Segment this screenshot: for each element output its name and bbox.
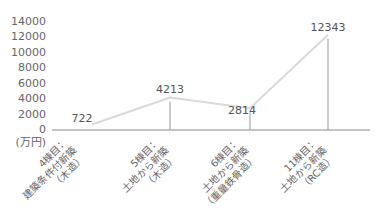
y-tick-label: 4000 — [18, 93, 46, 104]
y-tick-label: 2000 — [18, 109, 46, 120]
y-tick-label: 12000 — [11, 31, 46, 42]
data-label: 722 — [72, 112, 93, 125]
series-line — [92, 35, 328, 125]
y-tick-label: 8000 — [18, 62, 46, 73]
y-tick-label: 0 — [39, 124, 46, 135]
y-tick-label: 14000 — [11, 16, 46, 27]
data-label: 2814 — [228, 104, 256, 117]
line-chart: 7224213281412343 02000400060008000100001… — [0, 0, 375, 217]
data-label: 12343 — [311, 21, 346, 34]
y-tick-label: 6000 — [18, 78, 46, 89]
y-tick-label: 10000 — [11, 47, 46, 58]
data-label: 4213 — [156, 83, 184, 96]
y-axis-unit-label: (万円) — [15, 137, 46, 148]
